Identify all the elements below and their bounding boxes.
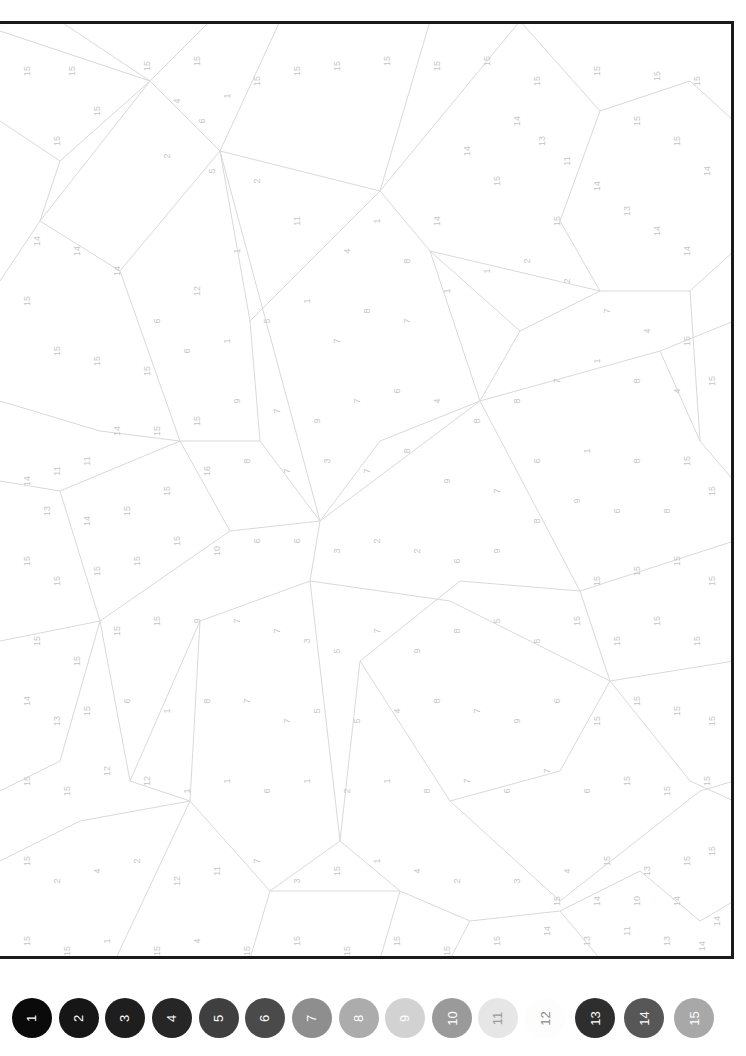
swatch-3[interactable]: 3 <box>105 998 145 1038</box>
coloring-canvas: 1515151515154612515151515151515151515151… <box>0 0 746 1056</box>
swatch-number: 9 <box>397 1014 412 1021</box>
swatch-7[interactable]: 7 <box>292 998 332 1038</box>
swatch-number: 12 <box>538 1011 553 1025</box>
swatch-number: 15 <box>687 1011 702 1025</box>
swatch-number: 13 <box>588 1011 603 1025</box>
swatch-13[interactable]: 13 <box>575 998 615 1038</box>
color-palette: 1 2 3 4 5 6 7 8 9 10 11 12 13 14 15 <box>12 998 732 1040</box>
swatch-number: 5 <box>211 1014 226 1021</box>
swatch-15[interactable]: 15 <box>674 998 714 1038</box>
swatch-number: 1 <box>24 1014 39 1021</box>
swatch-number: 4 <box>164 1014 179 1021</box>
swatch-14[interactable]: 14 <box>624 998 664 1038</box>
swatch-2[interactable]: 2 <box>59 998 99 1038</box>
swatch-9[interactable]: 9 <box>385 998 425 1038</box>
swatch-number: 8 <box>351 1014 366 1021</box>
swatch-10[interactable]: 10 <box>432 998 472 1038</box>
swatch-12[interactable]: 12 <box>525 998 565 1038</box>
swatch-number: 3 <box>117 1014 132 1021</box>
swatch-6[interactable]: 6 <box>245 998 285 1038</box>
swatch-number: 11 <box>491 1011 506 1025</box>
swatch-number: 10 <box>445 1011 460 1025</box>
swatch-1[interactable]: 1 <box>12 998 52 1038</box>
swatch-8[interactable]: 8 <box>339 998 379 1038</box>
swatch-11[interactable]: 11 <box>478 998 518 1038</box>
swatch-number: 6 <box>257 1014 272 1021</box>
swatch-number: 14 <box>637 1011 652 1025</box>
swatch-number: 7 <box>304 1014 319 1021</box>
swatch-5[interactable]: 5 <box>199 998 239 1038</box>
swatch-4[interactable]: 4 <box>152 998 192 1038</box>
canvas-frame <box>0 21 734 959</box>
swatch-number: 2 <box>71 1014 86 1021</box>
